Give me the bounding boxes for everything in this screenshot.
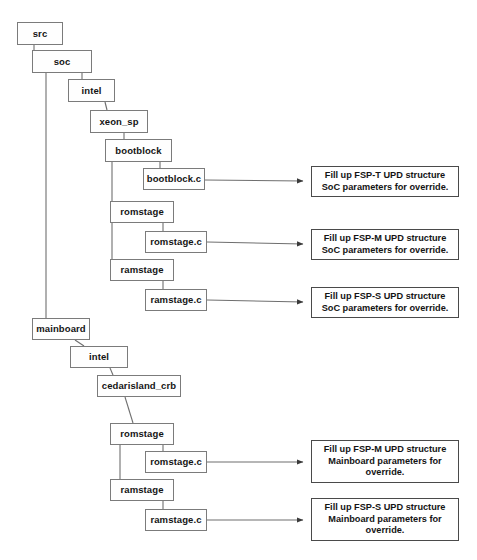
node-cedarisland-crb[interactable]: cedarisland_crb <box>97 375 181 397</box>
link-intel-cedarisland <box>110 368 113 375</box>
note-fsp-m-soc: Fill up FSP-M UPD structure SoC paramete… <box>311 229 459 260</box>
node-ramstage-c-mainboard[interactable]: ramstage.c <box>145 509 207 531</box>
node-xeon-sp[interactable]: xeon_sp <box>90 110 148 133</box>
node-ramstage-c-soc[interactable]: ramstage.c <box>145 289 207 311</box>
node-ramstage-mainboard[interactable]: ramstage <box>110 479 174 501</box>
node-romstage-soc[interactable]: romstage <box>110 201 174 223</box>
note-fsp-t-soc: Fill up FSP-T UPD structure SoC paramete… <box>311 166 459 197</box>
note-fsp-s-mainboard: Fill up FSP-S UPD structure Mainboard pa… <box>311 498 459 541</box>
node-romstage-c-soc[interactable]: romstage.c <box>145 231 207 253</box>
node-intel-soc[interactable]: intel <box>68 79 115 102</box>
link-cedarisland-romstage <box>125 397 133 423</box>
link-intel-xeonsp <box>105 102 107 110</box>
note-fsp-m-mainboard: Fill up FSP-M UPD structure Mainboard pa… <box>311 440 459 483</box>
node-mainboard[interactable]: mainboard <box>32 318 90 340</box>
node-src[interactable]: src <box>17 22 63 45</box>
arrow-ramstagec-note <box>207 300 303 302</box>
node-intel-mainboard[interactable]: intel <box>70 346 128 368</box>
node-bootblock-c[interactable]: bootblock.c <box>143 168 205 190</box>
diagram-canvas: src soc intel xeon_sp bootblock bootbloc… <box>0 0 477 560</box>
note-fsp-s-soc: Fill up FSP-S UPD structure SoC paramete… <box>311 287 459 318</box>
node-romstage-c-mainboard[interactable]: romstage.c <box>145 451 207 473</box>
arrow-bootblockc-note <box>205 180 303 181</box>
node-soc[interactable]: soc <box>32 50 92 73</box>
node-ramstage-soc[interactable]: ramstage <box>110 259 174 281</box>
node-romstage-mainboard[interactable]: romstage <box>110 423 174 445</box>
arrow-romstagec-note <box>207 242 303 244</box>
node-bootblock[interactable]: bootblock <box>105 139 172 162</box>
